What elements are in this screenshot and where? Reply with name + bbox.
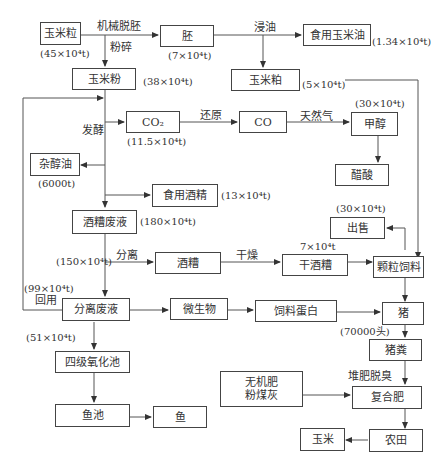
qty-dried-grains: 7×10⁴t — [300, 241, 336, 253]
node-corn-flour: 玉米粉 — [72, 68, 136, 90]
qty-corn-meal: (5×10⁴t) — [302, 79, 345, 91]
qty-methanol: (30×10⁴t) — [355, 98, 405, 110]
label-mechanical-degerm: 机械脱胚 — [97, 21, 141, 33]
qty-separation-flow: (150×10⁴t) — [56, 256, 112, 268]
qty-corn-flour: (38×10⁴t) — [143, 76, 193, 88]
node-corn-grain: 玉米粒 — [40, 22, 81, 45]
node-edible-alcohol: 食用酒精 — [152, 184, 218, 207]
qty-fusel-oil: (6000t) — [38, 178, 75, 190]
node-distillery-waste: 酒糟废液 — [72, 210, 137, 234]
node-oxidation-pond: 四级氧化池 — [55, 351, 130, 373]
node-methanol: 甲醇 — [351, 112, 398, 136]
qty-germ: (7×10⁴t) — [168, 50, 211, 62]
node-co2: CO₂ — [126, 111, 180, 133]
label-dry: 干燥 — [236, 250, 258, 262]
node-distillers-grains: 酒糟 — [155, 252, 221, 274]
node-pig-manure: 猪粪 — [369, 339, 422, 361]
label-oil-extract: 浸油 — [254, 22, 276, 34]
node-corn: 玉米 — [300, 428, 345, 451]
node-compound-fertilizer: 复合肥 — [352, 386, 422, 409]
corn-processing-flowchart: 玉米粒 胚 食用玉米油 玉米粉 玉米粕 CO₂ CO 甲醇 醋酸 杂醇油 食用酒… — [0, 0, 446, 471]
label-ferment: 发酵 — [82, 125, 104, 137]
label-reuse: 回用 — [35, 295, 57, 307]
node-edible-corn-oil: 食用玉米油 — [303, 24, 371, 46]
node-fusel-oil: 杂醇油 — [30, 153, 80, 176]
qty-edible-alcohol: (13×10⁴t) — [221, 190, 271, 202]
qty-co2: (11.5×10⁴t) — [127, 136, 186, 148]
node-feed-protein: 饲料蛋白 — [255, 300, 337, 322]
node-co: CO — [239, 111, 287, 133]
label-reduction: 还原 — [200, 110, 222, 122]
label-separate: 分离 — [116, 250, 138, 262]
node-corn-meal: 玉米粕 — [231, 69, 300, 91]
qty-pig: (70000头) — [340, 326, 390, 338]
label-compost-deodorize: 堆肥脱臭 — [348, 371, 392, 383]
node-fish-pond: 鱼池 — [55, 404, 130, 427]
label-natural-gas: 天然气 — [300, 111, 333, 123]
label-crush: 粉碎 — [110, 42, 132, 54]
node-sale: 出售 — [330, 217, 385, 239]
node-pellet-feed: 颗粒饲料 — [373, 256, 424, 278]
qty-corn-grain: (45×10⁴t) — [40, 48, 90, 60]
qty-oxidation-flow: (51×10⁴t) — [26, 332, 76, 344]
node-acetic-acid: 醋酸 — [335, 164, 389, 186]
node-microbes: 微生物 — [170, 298, 228, 320]
node-fish: 鱼 — [153, 406, 207, 428]
qty-reuse-flow: (99×10⁴t) — [24, 283, 74, 295]
qty-distillery-waste: (180×10⁴t) — [140, 216, 196, 228]
node-farmland: 农田 — [369, 429, 423, 452]
node-dried-grains: 干酒糟 — [282, 254, 348, 276]
node-pig: 猪 — [382, 302, 424, 325]
node-germ: 胚 — [160, 25, 214, 47]
node-inorganic-fertilizer-fly-ash: 无机肥 粉煤灰 — [220, 371, 303, 407]
qty-edible-corn-oil: (1.34×10⁴t) — [372, 36, 431, 48]
node-separated-waste: 分离废液 — [62, 298, 130, 321]
qty-sale: (30×10⁴t) — [336, 203, 386, 215]
